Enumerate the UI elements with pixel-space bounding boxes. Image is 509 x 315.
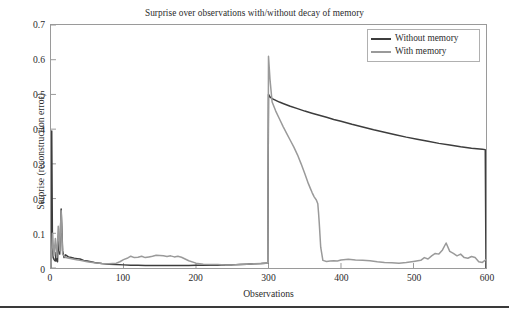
y-tick-label: 0.2 [4, 194, 45, 205]
legend-label-without-memory: Without memory [395, 33, 458, 44]
y-tick-label: 0.3 [4, 159, 45, 170]
chart-title: Surprise over observations with/without … [0, 8, 509, 18]
y-tick-label: 0.4 [4, 124, 45, 135]
x-tick-label: 300 [244, 272, 294, 283]
x-axis-label: Observations [50, 288, 487, 299]
x-tick-label: 100 [98, 272, 148, 283]
legend-swatch-with-memory [371, 51, 391, 53]
y-tick-label: 0.6 [4, 54, 45, 65]
legend-swatch-without-memory [371, 38, 391, 40]
x-tick-label: 0 [25, 272, 75, 283]
legend-item-without-memory[interactable]: Without memory [371, 32, 476, 45]
legend-label-with-memory: With memory [395, 46, 447, 57]
x-tick-label: 500 [389, 272, 439, 283]
series-line-with-memory [51, 56, 486, 268]
legend: Without memory With memory [367, 29, 480, 62]
x-tick-label: 400 [316, 272, 366, 283]
x-tick-label: 600 [462, 272, 509, 283]
x-tick-label: 200 [171, 272, 221, 283]
data-series-group [51, 56, 486, 268]
y-tick-label: 0.7 [4, 19, 45, 30]
y-axis-label: Surprise (reconstruction error) [35, 52, 46, 252]
y-tick-label: 0.5 [4, 89, 45, 100]
figure-canvas: Surprise over observations with/without … [0, 0, 509, 315]
legend-item-with-memory[interactable]: With memory [371, 45, 476, 58]
footer-rule [0, 306, 509, 308]
y-tick-label: 0.1 [4, 229, 45, 240]
